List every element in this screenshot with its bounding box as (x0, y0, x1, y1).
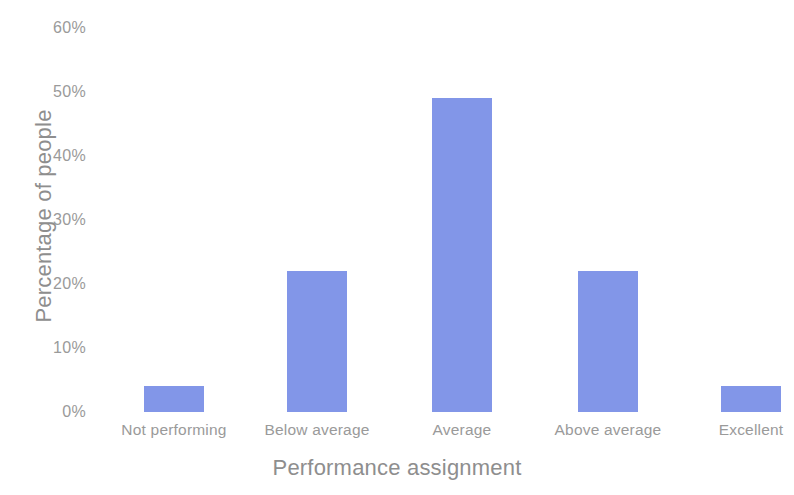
bar (287, 271, 347, 412)
x-axis-tick-label: Average (433, 421, 492, 439)
bar-chart: Percentage of people 60%50%40%30%20%10%0… (0, 0, 794, 495)
bar (144, 386, 204, 412)
x-axis-title: Performance assignment (0, 455, 794, 481)
y-axis-tick-label: 30% (32, 212, 86, 228)
y-axis-tick-labels: 60%50%40%30%20%10%0% (32, 0, 86, 495)
y-axis-tick-label: 10% (32, 340, 86, 356)
x-axis-tick-label: Below average (264, 421, 369, 439)
bar (578, 271, 638, 412)
y-axis-tick-label: 0% (32, 404, 86, 420)
bar (432, 98, 492, 412)
bar (721, 386, 781, 412)
plot-area: Not performingBelow averageAverageAbove … (100, 0, 794, 495)
x-axis-tick-label: Excellent (719, 421, 784, 439)
x-axis-tick-label: Above average (555, 421, 662, 439)
y-axis-tick-label: 50% (32, 84, 86, 100)
y-axis-tick-label: 20% (32, 276, 86, 292)
y-axis-tick-label: 60% (32, 20, 86, 36)
y-axis-tick-label: 40% (32, 148, 86, 164)
x-axis-tick-label: Not performing (121, 421, 226, 439)
